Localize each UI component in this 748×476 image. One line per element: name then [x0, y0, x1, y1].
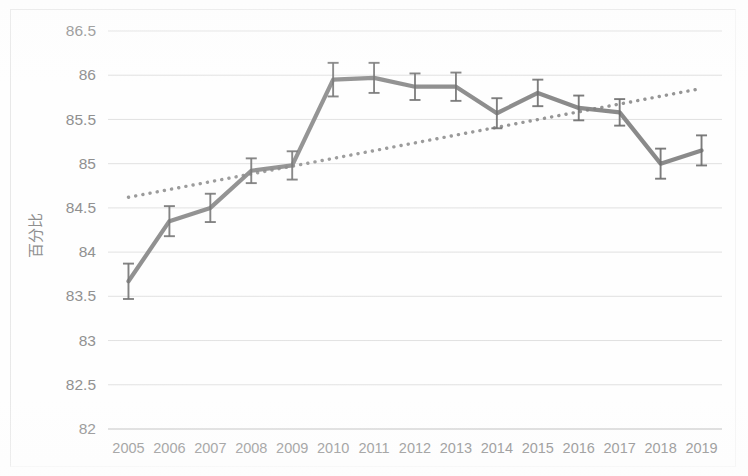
x-tick-label: 2011 — [358, 440, 389, 456]
y-tick-label: 86.5 — [66, 22, 96, 39]
x-tick-label: 2017 — [604, 440, 636, 456]
x-tick-label: 2015 — [522, 440, 554, 456]
x-tick-label: 2007 — [194, 440, 226, 456]
y-tick-label: 84.5 — [66, 199, 96, 216]
x-axis-tick-labels: 2005200620072008200920102011201220132014… — [112, 440, 717, 456]
chart-container: 86.58685.58584.58483.58382.582 200520062… — [0, 0, 748, 476]
x-tick-label: 2016 — [563, 440, 595, 456]
x-tick-label: 2019 — [685, 440, 717, 456]
y-tick-label: 84 — [79, 243, 97, 260]
x-tick-label: 2008 — [235, 440, 267, 456]
y-tick-label: 83.5 — [66, 287, 96, 304]
x-tick-label: 2010 — [317, 440, 349, 456]
x-tick-label: 2012 — [399, 440, 431, 456]
x-tick-label: 2006 — [153, 440, 185, 456]
y-tick-label: 85.5 — [66, 111, 96, 128]
x-tick-label: 2014 — [481, 440, 513, 456]
x-tick-label: 2018 — [644, 440, 676, 456]
y-tick-label: 82 — [79, 420, 96, 437]
line-chart: 86.58685.58584.58483.58382.582 200520062… — [0, 0, 748, 476]
error-bars-group — [123, 63, 707, 299]
y-tick-label: 83 — [79, 332, 96, 349]
x-tick-label: 2009 — [276, 440, 308, 456]
trendline — [128, 88, 701, 197]
x-tick-label: 2013 — [440, 440, 472, 456]
y-tick-label: 86 — [79, 66, 96, 83]
x-tick-label: 2005 — [112, 440, 144, 456]
y-axis-title: 百分比 — [27, 213, 44, 258]
y-tick-label: 85 — [79, 155, 96, 172]
y-axis-tick-labels: 86.58685.58584.58483.58382.582 — [66, 22, 97, 437]
y-tick-label: 82.5 — [66, 376, 96, 393]
error-bar — [123, 264, 134, 299]
